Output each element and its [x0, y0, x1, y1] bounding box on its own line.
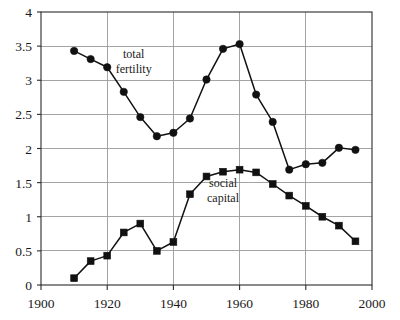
data-point-marker: [104, 64, 111, 71]
data-point-marker: [170, 129, 177, 136]
data-point-marker: [252, 91, 259, 98]
data-point-marker: [170, 239, 177, 246]
y-axis-tick-label: 2: [25, 142, 32, 157]
x-axis-tick-labels: 190019201940196019802000: [28, 296, 386, 311]
y-axis-tick-label: 0.5: [15, 244, 32, 259]
data-point-marker: [87, 55, 94, 62]
data-point-marker: [120, 229, 127, 236]
data-point-marker: [137, 220, 144, 227]
x-axis-tick-label: 1920: [94, 296, 121, 311]
data-point-marker: [203, 76, 210, 83]
data-point-marker: [335, 144, 342, 151]
data-point-marker: [253, 169, 260, 176]
chart-container: 00.511.522.533.54 1900192019401960198020…: [0, 0, 400, 320]
x-axis-tick-label: 1940: [160, 296, 187, 311]
data-point-marker: [187, 191, 194, 198]
data-point-marker: [286, 166, 293, 173]
line-chart: 00.511.522.533.54 1900192019401960198020…: [0, 0, 400, 320]
data-point-marker: [302, 161, 309, 168]
data-point-marker: [71, 275, 78, 282]
data-point-marker: [236, 40, 243, 47]
axis-ticks: [37, 12, 372, 290]
data-point-marker: [153, 133, 160, 140]
x-axis-tick-label: 1960: [226, 296, 253, 311]
data-point-marker: [269, 118, 276, 125]
data-point-marker: [236, 166, 243, 173]
data-point-marker: [269, 181, 276, 188]
data-point-marker: [70, 47, 77, 54]
x-axis-tick-label: 1900: [28, 296, 55, 311]
y-axis-tick-label: 1.5: [15, 176, 32, 191]
x-axis-tick-label: 1980: [292, 296, 319, 311]
data-point-marker: [104, 252, 111, 259]
series-annotations: totalfertilitysocialcapital: [116, 47, 240, 206]
data-point-marker: [137, 113, 144, 120]
y-axis-tick-label: 3: [25, 73, 32, 88]
data-point-marker: [336, 222, 343, 229]
data-point-marker: [153, 247, 160, 254]
y-axis-tick-label: 1: [25, 210, 32, 225]
y-axis-tick-label: 0: [25, 278, 32, 293]
y-axis-tick-labels: 00.511.522.533.54: [15, 5, 32, 293]
data-point-marker: [87, 258, 94, 265]
y-axis-tick-label: 3.5: [15, 39, 32, 54]
data-point-marker: [120, 88, 127, 95]
series-total-fertility: [70, 40, 359, 173]
data-point-marker: [319, 213, 326, 220]
data-point-marker: [186, 115, 193, 122]
data-point-marker: [302, 202, 309, 209]
data-point-marker: [352, 146, 359, 153]
data-point-marker: [219, 45, 226, 52]
y-axis-tick-label: 2.5: [15, 107, 32, 122]
social-capital-label: socialcapital: [207, 176, 240, 205]
x-axis-tick-label: 2000: [359, 296, 386, 311]
total-fertility-label: totalfertility: [116, 47, 152, 76]
data-point-marker: [286, 192, 293, 199]
data-point-marker: [319, 159, 326, 166]
data-point-marker: [352, 238, 359, 245]
y-axis-tick-label: 4: [25, 5, 32, 20]
data-point-marker: [220, 168, 227, 175]
